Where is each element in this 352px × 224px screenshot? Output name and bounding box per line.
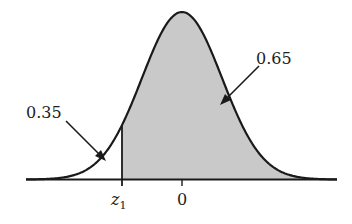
z1-tick-label: z1: [110, 190, 126, 212]
left-area-arrow: [66, 121, 106, 161]
normal-curve-chart: 0.35 0.65 z1 0: [0, 0, 352, 224]
zero-tick-label: 0: [177, 190, 187, 209]
right-area-label: 0.65: [256, 49, 292, 68]
left-area-label: 0.35: [26, 103, 62, 122]
